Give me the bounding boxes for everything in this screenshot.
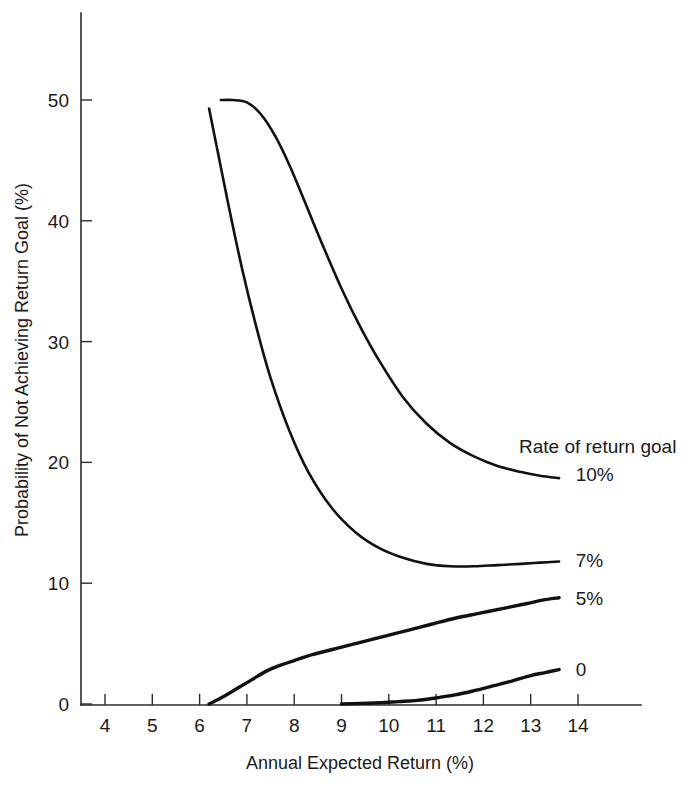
series-label-7pct: 7%	[576, 550, 604, 571]
x-tick-label: 12	[473, 715, 494, 736]
x-tick-label: 7	[242, 715, 253, 736]
series-labels: 10%7%5%0	[576, 464, 614, 679]
x-tick-label: 4	[100, 715, 111, 736]
x-axis-title: Annual Expected Return (%)	[246, 753, 474, 773]
series-line-10pct	[221, 100, 559, 478]
x-tick-label: 10	[378, 715, 399, 736]
x-tick-label: 14	[567, 715, 589, 736]
series-line-5pct	[209, 598, 559, 704]
y-tick-label: 20	[48, 452, 69, 473]
y-tick-label: 40	[48, 211, 69, 232]
series-line-0	[342, 670, 560, 704]
y-axis-title: Probability of Not Achieving Return Goal…	[12, 183, 32, 537]
x-tick-label: 13	[520, 715, 541, 736]
series-curves	[209, 100, 559, 704]
series-label-0: 0	[576, 659, 587, 680]
series-line-7pct	[209, 108, 559, 566]
x-tick-label: 5	[147, 715, 158, 736]
y-tick-label: 30	[48, 332, 69, 353]
y-tick-label: 10	[48, 573, 69, 594]
x-tick-label: 8	[289, 715, 300, 736]
series-label-5pct: 5%	[576, 588, 604, 609]
chart-figure: 01020304050 4567891011121314 10%7%5%0 Ra…	[0, 0, 684, 794]
line-chart: 01020304050 4567891011121314 10%7%5%0 Ra…	[0, 0, 684, 794]
y-tick-label: 0	[58, 694, 69, 715]
y-axis-ticks: 01020304050	[48, 90, 92, 715]
x-axis-ticks: 4567891011121314	[100, 694, 589, 736]
x-tick-label: 6	[194, 715, 205, 736]
y-tick-label: 50	[48, 90, 69, 111]
x-tick-label: 9	[336, 715, 347, 736]
legend-title: Rate of return goal	[519, 436, 676, 457]
axes	[81, 13, 641, 705]
series-label-10pct: 10%	[576, 464, 614, 485]
x-tick-label: 11	[426, 715, 446, 736]
